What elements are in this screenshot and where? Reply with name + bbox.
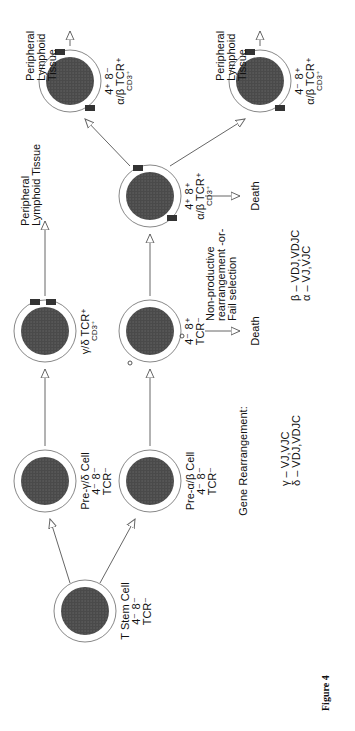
cell-dp-tcr <box>119 300 184 365</box>
gene-rearrangement-ab: β – VDJ,VDJCα – VJ,VJC <box>290 201 312 301</box>
gene-rearrangement-heading: Gene Rearrangement: <box>238 391 249 531</box>
diagram-canvas: T Stem Cell4⁻ 8⁻TCR⁻ Pre-γ/δ Cell4⁻ 8⁻TC… <box>0 0 355 731</box>
label-pre-gd: Pre-γ/δ Cell4⁻ 8⁻TCR⁻ <box>80 431 113 531</box>
dest-peripheral-cd4: PeripheralLymphoid Tissue <box>25 1 58 81</box>
cell-pre-ab <box>119 450 181 512</box>
label-dp-tcr: 4⁻ 8⁺TCR⁻ <box>184 281 206 381</box>
label-stem: T Stem Cell4⁻ 8⁻TCR⁻ <box>120 561 153 661</box>
dest-peripheral-cd8: PeripheralLymphoid Tissue <box>215 1 248 81</box>
dest-peripheral-gd: PeripheralLymphoid Tissue <box>20 116 42 226</box>
gene-rearrangement-gd: γ – VJ,VJCδ – VDJ,VDJC <box>280 386 302 486</box>
cell-gd-tcr <box>14 299 76 362</box>
label-cd4: 4⁺ 8⁻α/β TCR⁺CD3⁺ <box>104 31 134 131</box>
arrow-stem-to-pregd <box>50 519 70 583</box>
cell-stem <box>54 580 116 642</box>
figure-label: Figure 4 <box>320 675 331 711</box>
label-pre-ab: Pre-α/β Cell4⁻ 8⁻TCR⁻ <box>185 431 218 531</box>
label-cd8: 4⁻ 8⁺α/β TCR⁺CD3⁺ <box>294 31 324 131</box>
nonproductive-note: Non-productiverearrangement -or-Fail sel… <box>205 201 238 321</box>
death-2: Death <box>250 171 261 221</box>
cell-dp-ab <box>119 165 181 227</box>
label-gd-tcr: γ/δ TCR⁺CD3⁺ <box>80 281 99 381</box>
cell-pre-gd <box>14 450 76 512</box>
death-1: Death <box>250 306 261 356</box>
